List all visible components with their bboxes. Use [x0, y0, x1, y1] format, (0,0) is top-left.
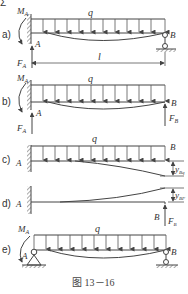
moment-label: MA — [16, 6, 29, 17]
deflection-label: yBF — [174, 190, 186, 201]
load-label: q — [92, 133, 97, 144]
panel-b: b) q B A MA FA FB — [2, 73, 179, 134]
panel-label: e) — [2, 244, 11, 255]
load-label: q — [88, 7, 93, 18]
force-right-label: FB — [168, 113, 179, 124]
point-a-label: A — [34, 39, 41, 49]
distributed-load-arrows — [43, 19, 165, 32]
panel-c: c) q B A yBq — [2, 133, 185, 176]
panel-a: a) q B A MA — [2, 6, 176, 69]
point-b-label: B — [171, 247, 177, 257]
force-left-label: FA — [16, 123, 27, 134]
ground-support — [156, 49, 176, 52]
panel-label: c) — [2, 154, 10, 165]
deflection-label: yBq — [174, 164, 185, 175]
pin-support — [27, 255, 41, 265]
fixed-wall — [27, 80, 31, 110]
pin-joint — [163, 33, 168, 38]
distributed-load-arrows — [34, 235, 166, 249]
point-b-label: B — [170, 142, 176, 152]
panel-label: d) — [2, 198, 11, 209]
header-mark: Σ — [0, 0, 6, 8]
fixed-wall — [27, 145, 31, 172]
ground-support — [156, 265, 178, 268]
fixed-wall — [27, 186, 31, 214]
fixed-wall — [27, 14, 31, 44]
length-label: l — [98, 51, 101, 62]
deflection-curve — [48, 33, 165, 41]
moment-label: MA — [17, 224, 30, 235]
panel-e: e) q B A MA — [2, 223, 178, 268]
load-label: q — [95, 223, 100, 234]
point-a-label: A — [15, 158, 22, 168]
moment-arrow-icon — [19, 83, 26, 112]
panel-label: b) — [2, 96, 11, 107]
figure-caption: 图 13－16 — [72, 277, 115, 288]
force-label: FA — [16, 58, 27, 69]
panel-d: d) A yBF B FB — [2, 186, 186, 227]
point-a-label: A — [35, 108, 42, 118]
point-b-label: B — [170, 30, 176, 40]
force-label: FB — [167, 216, 177, 227]
load-label: q — [88, 73, 93, 84]
deflection-curve — [48, 250, 166, 258]
moment-label: MA — [16, 73, 29, 84]
distributed-load-arrows — [43, 146, 165, 160]
deflection-curve — [60, 188, 165, 202]
point-b-label: B — [171, 98, 177, 108]
pin-joint — [31, 249, 37, 255]
pin-joint — [164, 250, 169, 255]
point-a-label: A — [21, 251, 28, 261]
moment-arrow-icon — [19, 18, 26, 44]
point-b-label: B — [154, 212, 160, 222]
distributed-load-arrows — [43, 85, 165, 101]
panel-label: a) — [2, 29, 11, 40]
deflection-curve — [75, 161, 165, 176]
point-a-label: A — [15, 199, 22, 209]
ground-support — [22, 265, 46, 268]
deflection-curve — [48, 102, 165, 109]
beam-deflection-figure: Σ a) q B A — [0, 0, 188, 294]
